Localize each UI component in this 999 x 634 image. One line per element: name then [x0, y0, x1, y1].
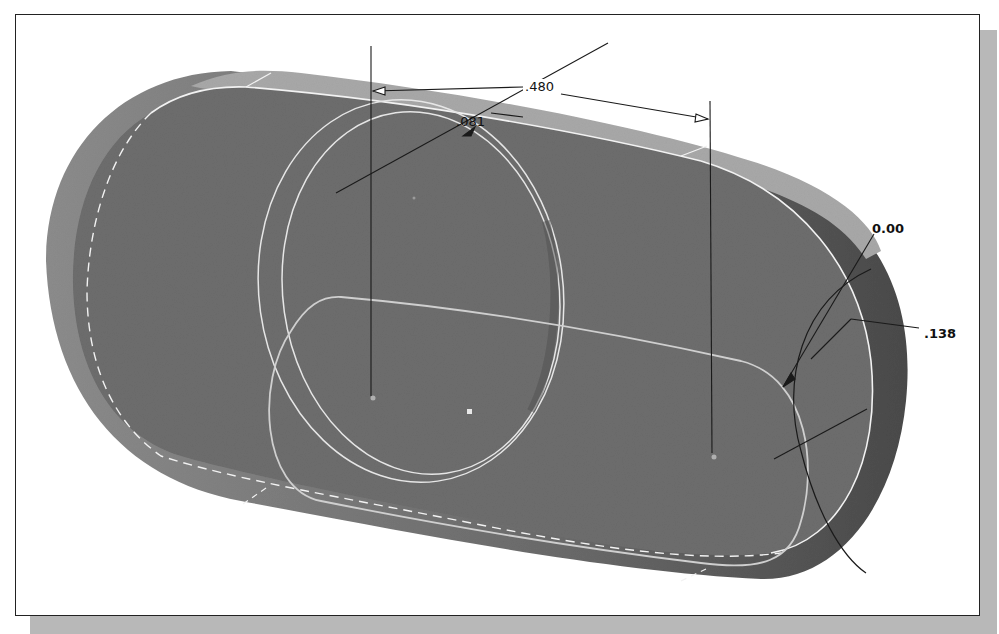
cad-viewport[interactable]: .480 .081 0.00 .138	[15, 14, 980, 616]
slot-center-left-point	[371, 396, 376, 401]
dim-138-label[interactable]: .138	[924, 326, 956, 341]
circle-center-point	[467, 409, 472, 414]
dim-081-label[interactable]: .081	[456, 114, 485, 129]
dim-000-label[interactable]: 0.00	[872, 221, 904, 236]
slot-center-right-point	[712, 455, 717, 460]
model-canvas[interactable]: .480 .081 0.00 .138	[16, 15, 981, 617]
dim-480-label[interactable]: .480	[525, 79, 554, 94]
